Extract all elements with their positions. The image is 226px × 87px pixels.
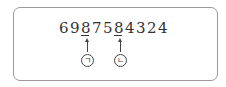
marker-circle-giyeok: ㄱ <box>81 54 94 67</box>
digit-underlined: 8 <box>114 19 125 37</box>
number-sequence: 6 9 8 7 5 8 4 3 2 4 <box>59 19 169 37</box>
digit-underlined: 8 <box>81 19 92 37</box>
digit: 4 <box>158 19 169 37</box>
marker-circle-nieun: ㄴ <box>114 54 127 67</box>
digit: 6 <box>59 19 70 37</box>
digit: 4 <box>125 19 136 37</box>
arrow-line <box>87 41 88 52</box>
digit: 9 <box>70 19 81 37</box>
digit: 3 <box>136 19 147 37</box>
digit: 7 <box>92 19 103 37</box>
digit: 5 <box>103 19 114 37</box>
digit: 2 <box>147 19 158 37</box>
arrow-line <box>120 41 121 52</box>
